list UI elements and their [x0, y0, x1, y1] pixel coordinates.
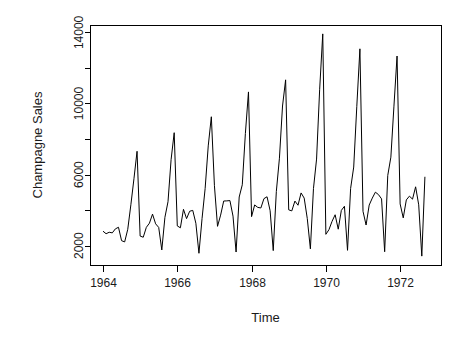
- x-axis-ticks: [104, 266, 401, 272]
- y-axis-tick-labels: 200060001000014000: [72, 15, 86, 259]
- x-tick-label: 1966: [164, 276, 191, 290]
- y-axis-ticks: [85, 33, 91, 247]
- x-tick-label: 1972: [387, 276, 414, 290]
- plot-box-frame: [91, 26, 442, 266]
- y-tick-label: 10000: [72, 86, 86, 120]
- x-axis-tick-labels: 19641966196819701972: [90, 276, 414, 290]
- y-tick-label: 6000: [72, 161, 86, 188]
- x-tick-label: 1970: [313, 276, 340, 290]
- x-axis-title: Time: [251, 310, 279, 325]
- chart-figure: 200060001000014000 19641966196819701972 …: [0, 0, 464, 342]
- y-axis-title: Champagne Sales: [30, 91, 45, 198]
- champagne-sales-line: [103, 34, 425, 256]
- y-tick-label: 2000: [72, 232, 86, 259]
- timeseries-plot: 200060001000014000 19641966196819701972 …: [0, 0, 464, 342]
- x-tick-label: 1968: [239, 276, 266, 290]
- y-tick-label: 14000: [72, 15, 86, 49]
- x-tick-label: 1964: [90, 276, 117, 290]
